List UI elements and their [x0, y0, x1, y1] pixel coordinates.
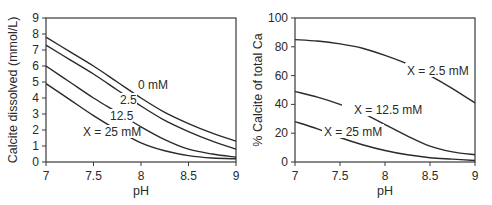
annotation-2-5: 2.5	[120, 93, 137, 107]
annotation-25mM: X = 25 mM	[83, 125, 141, 139]
right-y-tick-label: 0	[281, 155, 288, 169]
left-y-tick-label: 3	[32, 107, 39, 121]
left-curves	[46, 37, 236, 159]
right-y-tick-label: 40	[275, 97, 289, 111]
chart-percent-calcite: 02040608010077.588.59 pH % Calcite of to…	[251, 11, 479, 198]
left-x-tick-label: 8.5	[180, 169, 197, 183]
left-y-tick-label: 6	[32, 59, 39, 73]
right-y-axis-label: % Calcite of total Ca	[251, 33, 265, 146]
chart-canvas: 012345678977.588.59 pH Calcite dissolved…	[0, 0, 492, 205]
left-y-tick-label: 5	[32, 75, 39, 89]
left-x-tick-label: 7	[43, 169, 50, 183]
right-axis-ticks: 02040608010077.588.59	[268, 11, 479, 183]
left-y-tick-label: 8	[32, 27, 39, 41]
right-x-tick-label: 9	[472, 169, 479, 183]
left-y-axis-label: Calcite dissolved (mmol/L)	[6, 17, 20, 164]
right-y-tick-label: 20	[275, 126, 289, 140]
right-curves	[295, 40, 475, 161]
left-x-tick-label: 7.5	[85, 169, 102, 183]
chart-calcite-dissolved: 012345678977.588.59 pH Calcite dissolved…	[6, 11, 240, 198]
annotation-25mM-right: X = 25 mM	[324, 125, 382, 139]
left-x-tick-label: 9	[233, 169, 240, 183]
left-y-tick-label: 9	[32, 11, 39, 25]
annotation-12-5mM: X = 12.5 mM	[354, 103, 422, 117]
right-x-tick-label: 8	[382, 169, 389, 183]
right-series-1	[295, 91, 475, 154]
left-x-axis-label: pH	[133, 184, 149, 198]
left-y-tick-label: 2	[32, 123, 39, 137]
right-x-tick-label: 7.5	[332, 169, 349, 183]
right-x-tick-label: 7	[292, 169, 299, 183]
left-y-tick-label: 7	[32, 43, 39, 57]
right-y-tick-label: 100	[268, 11, 288, 25]
left-y-tick-label: 0	[32, 155, 39, 169]
right-y-tick-label: 80	[275, 40, 289, 54]
annotation-12-5: 12.5	[110, 109, 134, 123]
figure: 012345678977.588.59 pH Calcite dissolved…	[0, 0, 492, 205]
right-plot-frame	[295, 18, 475, 162]
annotation-2-5mM: X = 2.5 mM	[407, 64, 469, 78]
right-y-tick-label: 60	[275, 69, 289, 83]
right-x-axis-label: pH	[377, 184, 393, 198]
left-y-tick-label: 4	[32, 91, 39, 105]
left-series-3	[46, 84, 236, 159]
left-y-tick-label: 1	[32, 139, 39, 153]
right-x-tick-label: 8.5	[422, 169, 439, 183]
left-x-tick-label: 8	[138, 169, 145, 183]
annotation-0mM: 0 mM	[138, 78, 168, 92]
